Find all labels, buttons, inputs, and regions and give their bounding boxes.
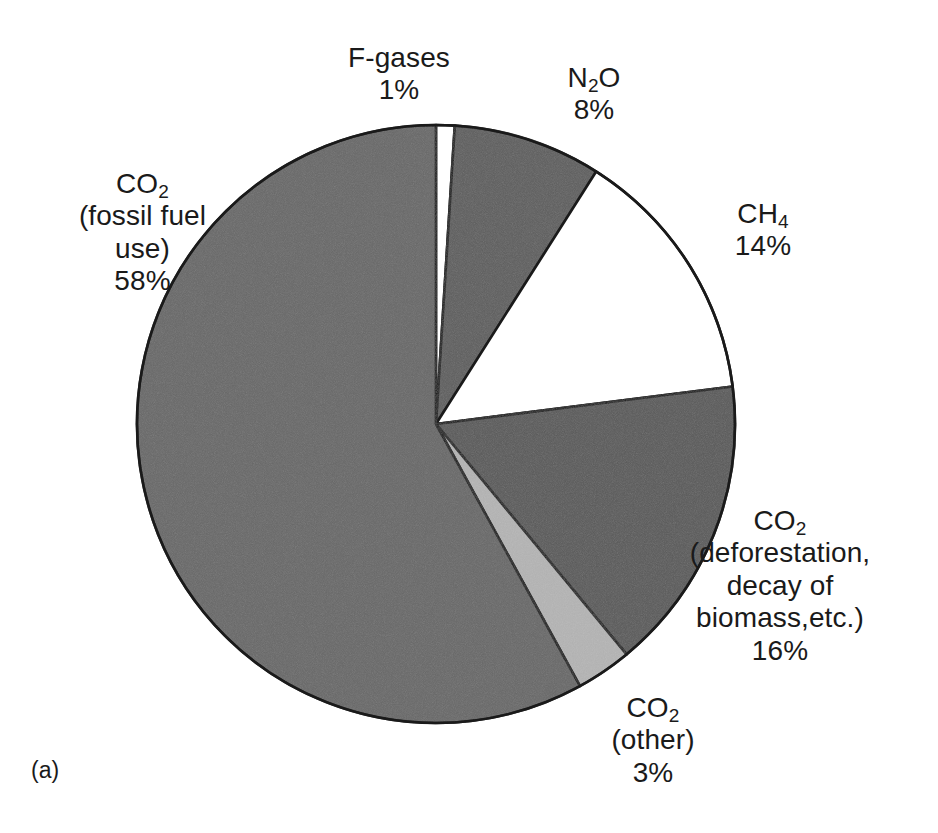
pie-label-n2o-base: N (568, 62, 588, 93)
pie-label-ch4-base: CH (737, 198, 778, 229)
pie-label-co2-fossil-percent: 58% (35, 265, 250, 297)
pie-chart-svg (0, 0, 938, 833)
pie-label-co2-fossil: CO2 (fossil fuel use) 58% (35, 168, 250, 298)
pie-label-co2-fossil-name: CO2 (35, 168, 250, 200)
pie-label-co2-deforestation-line3: decay of (646, 570, 914, 602)
pie-label-fgases-percent: 1% (304, 74, 494, 106)
pie-label-co2-deforestation-base: CO (754, 505, 796, 536)
pie-label-fgases: F-gases 1% (304, 42, 494, 107)
pie-label-co2-fossil-subscript: 2 (158, 181, 169, 202)
pie-label-fgases-name: F-gases (304, 42, 494, 74)
pie-label-co2-other-base: CO (627, 692, 669, 723)
pie-chart-figure: F-gases 1% N2O 8% CH4 14% CO2 (deforesta… (0, 0, 938, 833)
pie-label-n2o: N2O 8% (516, 62, 672, 127)
pie-label-co2-other: CO2 (other) 3% (560, 692, 746, 789)
pie-label-co2-deforestation-line2: (deforestation, (646, 537, 914, 569)
pie-label-ch4-subscript: 4 (778, 211, 789, 232)
pie-label-n2o-name: N2O (516, 62, 672, 94)
pie-label-co2-deforestation-name: CO2 (646, 505, 914, 537)
pie-label-co2-deforestation: CO2 (deforestation, decay of biomass,etc… (646, 505, 914, 667)
pie-label-co2-fossil-line2: (fossil fuel (35, 200, 250, 232)
pie-label-co2-deforestation-percent: 16% (646, 635, 914, 667)
pie-label-ch4: CH4 14% (688, 198, 838, 263)
pie-label-co2-fossil-line3: use) (35, 233, 250, 265)
pie-label-n2o-subscript: 2 (588, 75, 599, 96)
pie-label-ch4-percent: 14% (688, 230, 838, 262)
pie-label-co2-fossil-base: CO (116, 168, 158, 199)
panel-caption: (a) (31, 757, 59, 784)
pie-label-co2-other-percent: 3% (560, 757, 746, 789)
pie-label-n2o-tail: O (599, 62, 621, 93)
pie-label-co2-other-subscript: 2 (669, 705, 680, 726)
pie-label-co2-deforestation-subscript: 2 (796, 518, 807, 539)
pie-label-ch4-name: CH4 (688, 198, 838, 230)
pie-label-co2-other-name: CO2 (560, 692, 746, 724)
pie-label-co2-other-line2: (other) (560, 724, 746, 756)
pie-label-co2-deforestation-line4: biomass,etc.) (646, 602, 914, 634)
pie-label-n2o-percent: 8% (516, 94, 672, 126)
